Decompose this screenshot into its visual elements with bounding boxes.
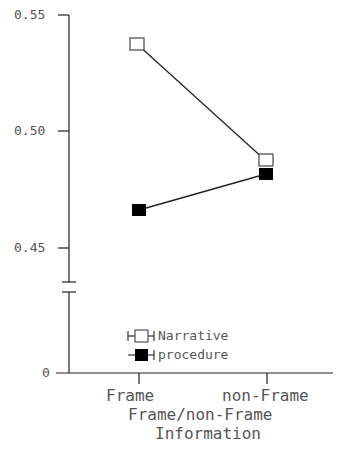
x-axis-title-line-2: Information <box>155 424 261 443</box>
legend-marker-procedure <box>135 349 148 361</box>
y-tick-label-0.50: 0.50 <box>14 123 45 138</box>
line-chart: 0.55 0.50 0.45 0 Narrative procedure Fra… <box>0 0 346 449</box>
y-tick-label-0.55: 0.55 <box>14 7 45 22</box>
marker-procedure-frame <box>132 204 146 216</box>
legend <box>128 330 154 361</box>
x-axis-title-line-1: Frame/non-Frame <box>128 405 273 424</box>
marker-narrative-frame <box>130 38 144 50</box>
series-line-procedure <box>139 174 266 210</box>
x-category-label-non-frame: non-Frame <box>222 386 309 405</box>
marker-procedure-non-frame <box>259 168 273 180</box>
chart-canvas <box>0 0 346 449</box>
x-category-label-frame: Frame <box>106 386 154 405</box>
y-tick-label-0.45: 0.45 <box>14 240 45 255</box>
legend-label-narrative: Narrative <box>158 328 228 343</box>
y-tick-label-0: 0 <box>42 365 50 380</box>
marker-narrative-non-frame <box>259 154 273 166</box>
series-line-narrative <box>137 44 265 160</box>
legend-marker-narrative <box>135 330 148 342</box>
legend-label-procedure: procedure <box>158 347 228 362</box>
